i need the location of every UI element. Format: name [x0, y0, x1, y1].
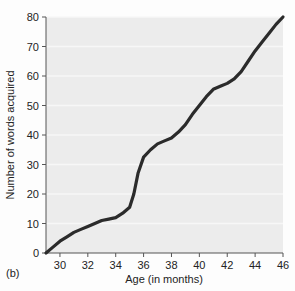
x-axis-tick-label: 42: [221, 259, 233, 271]
x-axis-title: Age (in months): [125, 273, 203, 285]
line-chart: 01020304050607080 303234363840424446 Age…: [0, 0, 295, 291]
y-axis-title: Number of words acquired: [4, 70, 16, 199]
x-axis-tick-label: 38: [165, 259, 177, 271]
x-axis-tick-labels: 303234363840424446: [54, 259, 289, 271]
y-axis-tick-labels: 01020304050607080: [27, 11, 39, 259]
panel-label: (b): [6, 267, 19, 279]
y-axis-tick-label: 40: [27, 129, 39, 141]
y-axis-ticks: [42, 17, 46, 253]
x-axis-tick-label: 34: [110, 259, 122, 271]
x-axis-tick-label: 32: [82, 259, 94, 271]
y-axis-tick-label: 70: [27, 41, 39, 53]
y-axis-tick-label: 30: [27, 159, 39, 171]
y-axis-tick-label: 80: [27, 11, 39, 23]
x-axis-tick-label: 40: [193, 259, 205, 271]
x-axis-tick-label: 44: [249, 259, 261, 271]
y-axis-tick-label: 20: [27, 188, 39, 200]
x-axis-tick-label: 46: [277, 259, 289, 271]
y-axis-tick-label: 50: [27, 100, 39, 112]
y-axis-tick-label: 10: [27, 218, 39, 230]
x-axis-ticks: [60, 253, 283, 257]
x-axis-tick-label: 30: [54, 259, 66, 271]
y-axis-tick-label: 60: [27, 70, 39, 82]
x-axis-tick-label: 36: [137, 259, 149, 271]
figure-panel: 01020304050607080 303234363840424446 Age…: [0, 0, 295, 291]
y-axis-tick-label: 0: [33, 247, 39, 259]
